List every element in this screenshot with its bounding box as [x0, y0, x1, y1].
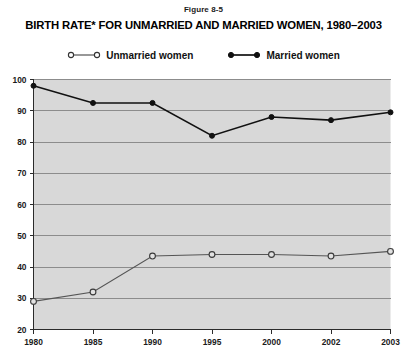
data-point-unmarried [209, 252, 215, 258]
y-axis-tick-label: 50 [17, 231, 27, 241]
data-point-married [91, 100, 96, 105]
data-point-unmarried [31, 298, 37, 304]
data-point-married [269, 115, 274, 120]
x-axis-tick-label: 1980 [24, 337, 43, 347]
data-point-unmarried [269, 252, 275, 258]
y-axis-tick-label: 80 [17, 137, 27, 147]
data-point-unmarried [150, 253, 156, 259]
x-axis-tick-label: 1990 [143, 337, 162, 347]
data-point-unmarried [388, 248, 394, 254]
x-axis-tick-label: 1985 [84, 337, 103, 347]
data-point-married [210, 133, 215, 138]
y-axis-tick-label: 30 [17, 293, 27, 303]
y-axis-tick-label: 70 [17, 168, 27, 178]
y-axis-tick-label: 60 [17, 200, 27, 210]
data-point-unmarried [90, 289, 96, 295]
data-point-married [329, 118, 334, 123]
y-axis-tick-label: 40 [17, 262, 27, 272]
data-point-married [150, 100, 155, 105]
chart-svg: 1009080706050403020198019851990199520002… [0, 0, 407, 361]
data-point-married [31, 83, 36, 88]
y-axis-tick-label: 90 [17, 106, 27, 116]
x-axis-tick-label: 1995 [203, 337, 222, 347]
figure-container: Figure 8-5 BIRTH RATE* FOR UNMARRIED AND… [0, 0, 407, 361]
plot-area: 1009080706050403020198019851990199520002… [0, 0, 407, 361]
x-axis-tick-label: 2000 [262, 337, 281, 347]
y-axis-tick-label: 20 [17, 325, 27, 335]
y-axis-tick-label: 100 [13, 75, 27, 85]
x-axis-tick-label: 2003 [381, 337, 400, 347]
x-axis-tick-label: 2002 [322, 337, 341, 347]
data-point-unmarried [328, 253, 334, 259]
data-point-married [388, 110, 393, 115]
